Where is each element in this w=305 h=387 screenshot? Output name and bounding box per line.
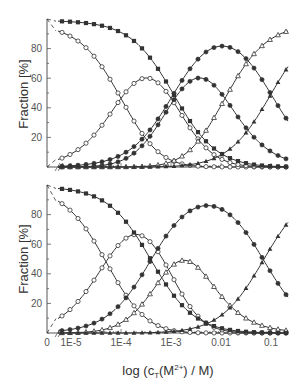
data-point [212,331,216,335]
data-point [76,299,80,303]
series-line [58,235,288,334]
data-point [132,119,136,123]
data-point [140,243,144,247]
data-point [92,239,96,243]
data-point [252,330,256,334]
data-point [284,116,288,120]
data-point [148,260,152,264]
data-point [252,242,256,246]
data-point [124,236,128,240]
data-point [92,22,96,26]
data-point [220,165,224,169]
data-point [188,311,192,315]
data-point [124,150,128,154]
data-point [228,103,232,107]
series-line [58,201,288,333]
data-point [132,230,136,234]
y-tick-label: 80 [31,43,43,54]
data-point [204,139,208,143]
data-point [124,296,128,300]
data-point [284,331,288,335]
data-point [124,220,128,224]
data-point [164,79,168,83]
y-tick-label: 40 [31,268,43,279]
data-point [108,112,112,116]
data-point [180,106,184,110]
data-point [68,208,72,212]
data-point [180,154,185,158]
data-point [260,163,264,167]
data-point [140,273,144,277]
data-point [196,316,200,320]
data-point [284,293,288,297]
data-point [268,164,272,168]
data-point [148,142,152,146]
data-point [92,321,96,325]
data-point [212,46,216,50]
data-point [220,92,224,96]
data-point [92,54,96,58]
data-point [220,326,224,330]
data-point [108,26,112,30]
data-point [172,91,176,95]
data-point [172,278,176,282]
data-point [140,77,144,81]
data-point [92,133,96,137]
data-point [212,146,216,150]
data-point [140,144,144,148]
data-point [148,128,152,132]
data-point [276,331,280,335]
data-point [172,294,176,298]
data-point [180,292,184,296]
data-point [84,191,88,195]
data-point [172,262,177,266]
y-tick-label: 40 [31,102,43,113]
data-point [228,328,232,332]
data-point [180,215,184,219]
data-point [204,204,208,208]
series-line [58,46,288,166]
data-point [84,46,88,50]
data-point [164,110,168,114]
data-point [284,165,288,169]
data-point [116,281,120,285]
data-point [156,123,160,127]
data-point [76,148,80,152]
data-point [68,34,72,38]
data-point [108,267,112,271]
speciation-chart: 20406080 2040608001E-51E-41E-30.010.1 Fr… [0,0,305,387]
data-point [172,223,176,227]
data-point [84,324,88,328]
x-tick-label: 0.1 [264,337,278,348]
data-point [76,39,80,43]
data-point [268,331,272,335]
y-tick-label: 20 [31,298,43,309]
data-point [148,56,152,60]
data-point [60,30,64,34]
data-point [236,329,240,333]
data-point [188,79,192,83]
y-tick-label: 60 [31,239,43,250]
data-point [164,282,168,286]
data-point [132,285,136,289]
data-point [100,198,104,202]
x-tick-label: 1E-3 [160,337,182,348]
data-point [100,160,104,164]
data-point [188,119,192,123]
data-point [284,157,288,161]
data-point [92,194,96,198]
data-point [188,209,192,213]
data-point [244,161,248,165]
data-point [220,44,224,48]
data-point [228,213,232,217]
data-point [68,307,72,311]
data-point [60,187,64,191]
data-point [228,45,232,49]
data-point [148,319,152,323]
data-point [164,234,168,238]
data-point [148,76,152,80]
data-point [68,152,72,156]
data-point [220,207,224,211]
data-point [60,314,64,318]
data-point [260,255,264,259]
